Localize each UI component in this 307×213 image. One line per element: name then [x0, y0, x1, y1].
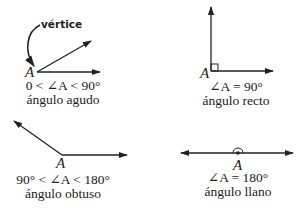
acute-relation: 0 < ∠A < 90°: [26, 79, 101, 93]
right-angle-mark: [211, 64, 218, 71]
vertex-annotation: vértice: [41, 18, 82, 30]
vertex-pointer-arrow: [28, 25, 40, 66]
straight-relation: ∠A = 180°: [208, 171, 268, 185]
obtuse-relation: 90° < ∠A < 180°: [16, 173, 110, 187]
straight-name: ángulo llano: [204, 185, 271, 199]
obtuse-angle-figure: [14, 121, 127, 155]
vertex-dot: [236, 151, 240, 155]
acute-name: ángulo agudo: [26, 93, 99, 107]
right-angle-figure: [211, 7, 273, 71]
right-vertex-label: A: [200, 66, 209, 81]
acute-angle-figure: [28, 25, 100, 72]
straight-angle-figure: [181, 148, 293, 155]
obtuse-name: ángulo obtuso: [25, 187, 101, 201]
right-relation: ∠A = 90°: [209, 80, 263, 94]
right-name: ángulo recto: [202, 94, 269, 108]
obtuse-vertex-label: A: [56, 156, 65, 171]
